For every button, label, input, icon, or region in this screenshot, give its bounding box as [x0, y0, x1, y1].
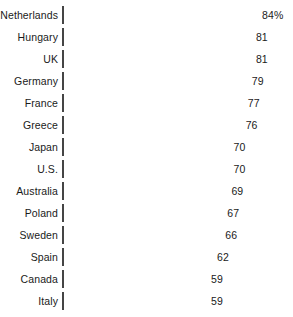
bar-row: France77 — [0, 94, 293, 116]
category-label: Germany — [0, 72, 58, 90]
bar-track — [62, 204, 221, 222]
bar-track — [62, 50, 250, 68]
bar — [62, 204, 64, 222]
bar — [62, 94, 64, 112]
bar — [62, 182, 64, 200]
bar — [62, 6, 64, 24]
bar-track — [62, 160, 227, 178]
bar-track — [62, 248, 211, 266]
bar — [62, 116, 64, 134]
category-label: U.S. — [0, 160, 58, 178]
bar — [62, 138, 64, 156]
category-label: UK — [0, 50, 58, 68]
bar-value-label: 81 — [256, 28, 268, 46]
bar-track — [62, 28, 250, 46]
bar-row: Italy59 — [0, 292, 293, 314]
bar-row: U.S.70 — [0, 160, 293, 182]
bar-value-label: 70 — [233, 138, 245, 156]
bar-value-label: 59 — [211, 270, 223, 288]
bar-track — [62, 116, 240, 134]
bar-row: Netherlands84% — [0, 6, 293, 28]
category-label: Spain — [0, 248, 58, 266]
bar — [62, 72, 64, 90]
bar — [62, 160, 64, 178]
bar-value-label: 59 — [211, 292, 223, 310]
bar-value-label: 76 — [246, 116, 258, 134]
category-label: Japan — [0, 138, 58, 156]
bar — [62, 226, 64, 244]
bar-chart: Netherlands84%Hungary81UK81Germany79Fran… — [0, 0, 293, 317]
bar-row: Canada59 — [0, 270, 293, 292]
bar-value-label: 84% — [262, 6, 283, 24]
bar — [62, 270, 64, 288]
bar-track — [62, 72, 246, 90]
category-label: Australia — [0, 182, 58, 200]
bar-value-label: 81 — [256, 50, 268, 68]
bar — [62, 292, 64, 310]
category-label: Canada — [0, 270, 58, 288]
bar-row: Sweden66 — [0, 226, 293, 248]
bar-row: Poland67 — [0, 204, 293, 226]
bar-row: Greece76 — [0, 116, 293, 138]
bar-value-label: 62 — [217, 248, 229, 266]
bar-row: Japan70 — [0, 138, 293, 160]
bar-row: Germany79 — [0, 72, 293, 94]
bar-value-label: 79 — [252, 72, 264, 90]
bar-track — [62, 292, 205, 310]
bar-track — [62, 138, 227, 156]
category-label: Netherlands — [0, 6, 58, 24]
bar-value-label: 67 — [227, 204, 239, 222]
category-label: Sweden — [0, 226, 58, 244]
bar — [62, 248, 64, 266]
bar-row: Spain62 — [0, 248, 293, 270]
bar-track — [62, 270, 205, 288]
bar-value-label: 70 — [233, 160, 245, 178]
category-label: Poland — [0, 204, 58, 222]
bar-row: UK81 — [0, 50, 293, 72]
bar-row: Australia69 — [0, 182, 293, 204]
bar-row: Hungary81 — [0, 28, 293, 50]
bar-track — [62, 6, 256, 24]
bar-value-label: 66 — [225, 226, 237, 244]
bar-value-label: 69 — [231, 182, 243, 200]
bar-track — [62, 94, 242, 112]
category-label: Greece — [0, 116, 58, 134]
bar — [62, 28, 64, 46]
category-label: Hungary — [0, 28, 58, 46]
bar — [62, 50, 64, 68]
bar-value-label: 77 — [248, 94, 260, 112]
category-label: France — [0, 94, 58, 112]
bar-track — [62, 182, 225, 200]
category-label: Italy — [0, 292, 58, 310]
bar-track — [62, 226, 219, 244]
